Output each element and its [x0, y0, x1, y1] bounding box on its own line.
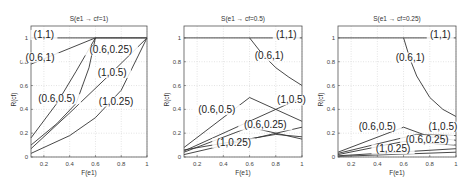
curve-label: (1,0.5) — [277, 94, 306, 105]
curve-label: (0.6,1) — [396, 52, 425, 63]
y-axis-label: R(cf) — [10, 92, 18, 106]
y-tick-label: 0 — [332, 154, 336, 160]
y-tick-label: 0.6 — [327, 83, 336, 89]
x-tick-label: 0.8 — [272, 161, 281, 167]
x-tick-label: 0.2 — [347, 161, 356, 167]
curve-label: (1,1) — [34, 29, 55, 40]
x-tick-label: 0.4 — [219, 161, 228, 167]
x-tick-label: 0.8 — [117, 161, 126, 167]
y-tick-label: 0.6 — [173, 83, 182, 89]
curve-label: (1,0.25) — [99, 96, 133, 107]
curve-label: (0.6,0.5) — [198, 104, 235, 115]
x-axis-label: F(e1) — [81, 169, 97, 177]
y-tick-label: 0.4 — [173, 106, 182, 112]
curve-label: (0.6,0.5) — [38, 93, 75, 104]
chart-title: S(e1 → cf=1) — [70, 15, 108, 23]
curve-label: (1,0.5) — [428, 121, 457, 132]
y-tick-label: 0.2 — [327, 130, 336, 136]
x-tick-label: 0.8 — [426, 161, 435, 167]
curve-label: (1,1) — [276, 29, 297, 40]
chart-panel-3: 0.20.40.60.8100.20.40.60.81S(e1 → cf=0.2… — [317, 15, 462, 177]
y-tick-label: 0.8 — [173, 59, 182, 65]
x-axis-label: F(e1) — [389, 169, 405, 177]
chart-title: S(e1 → cf=0.5) — [221, 15, 265, 23]
y-tick-label: 1 — [25, 35, 29, 41]
y-tick-label: 0.8 — [327, 59, 336, 65]
y-tick-label: 1 — [332, 35, 336, 41]
y-tick-label: 0.2 — [20, 130, 29, 136]
x-tick-label: 1 — [145, 161, 149, 167]
curve-label: (0.6,0.25) — [244, 119, 287, 130]
x-tick-label: 0.4 — [373, 161, 382, 167]
y-axis-label: R(cf) — [317, 92, 325, 106]
y-tick-label: 0.4 — [20, 106, 29, 112]
y-tick-label: 0.6 — [20, 83, 29, 89]
y-axis-label: R(cf) — [163, 92, 171, 106]
chart-panel-1: 0.20.40.60.8100.20.40.60.81S(e1 → cf=1)F… — [10, 15, 149, 177]
curve-label: (0.6,0.25) — [406, 134, 449, 145]
curve-labels: (1,1)(0.6,1)(0.6,0.5)(1,0.5)(0.6,0.25)(1… — [353, 29, 462, 154]
curve-label: (0.6,1) — [26, 52, 55, 63]
chart-panel-2: 0.20.40.60.8100.20.40.60.81S(e1 → cf=0.5… — [163, 15, 310, 177]
x-axis-label: F(e1) — [235, 169, 251, 177]
y-tick-label: 0 — [25, 154, 29, 160]
curve-label: (0.6,0.25) — [90, 44, 133, 55]
curve-label: (1,0.25) — [376, 143, 410, 154]
curve-label: (1,1) — [430, 29, 451, 40]
x-tick-label: 0.2 — [193, 161, 202, 167]
x-tick-label: 0.6 — [399, 161, 408, 167]
curve-labels: (1,1)(0.6,1)(0.6,0.25)(1,0.5)(0.6,0.5)(1… — [21, 29, 138, 107]
curve-label: (0.6,1) — [255, 50, 284, 61]
curve-label: (0.6,0.5) — [359, 121, 396, 132]
y-tick-label: 1 — [178, 35, 182, 41]
x-tick-label: 0.6 — [245, 161, 254, 167]
curve-labels: (1,1)(0.6,1)(0.6,0.5)(1,0.5)(0.6,0.25)(1… — [192, 29, 310, 148]
x-tick-label: 0.6 — [91, 161, 100, 167]
y-tick-label: 0 — [178, 154, 182, 160]
chart-title: S(e1 → cf=0.25) — [373, 15, 421, 23]
y-tick-label: 0.4 — [327, 106, 336, 112]
series-line — [404, 38, 456, 117]
x-tick-label: 0.4 — [65, 161, 74, 167]
curve-label: (1,0.25) — [217, 137, 251, 148]
curve-label: (1,0.5) — [98, 67, 127, 78]
x-tick-label: 1 — [454, 161, 458, 167]
y-tick-label: 0.2 — [173, 130, 182, 136]
x-tick-label: 0.2 — [40, 161, 49, 167]
x-tick-label: 1 — [300, 161, 304, 167]
figure-canvas: 0.20.40.60.8100.20.40.60.81S(e1 → cf=1)F… — [0, 0, 466, 182]
